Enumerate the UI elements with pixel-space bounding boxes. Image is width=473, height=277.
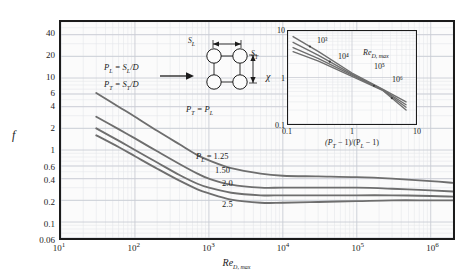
x-tick-1e4: 104	[277, 243, 290, 253]
y-tick-10: 10	[46, 72, 55, 82]
inset-x-a: (P	[325, 138, 333, 147]
y-tick-0-2: 0.2	[44, 197, 55, 207]
y-tick-1: 1	[51, 145, 56, 155]
inset-pointer	[309, 45, 311, 47]
inset-pointer	[329, 61, 331, 63]
pt-over-d: /D	[130, 79, 139, 89]
y-tick-0-6: 0.6	[44, 162, 55, 172]
tube-array-svg	[196, 38, 262, 108]
arrow-right-icon	[160, 70, 194, 82]
y-tick-20: 20	[46, 50, 55, 60]
x-tick-1e3: 103	[202, 243, 215, 253]
inset-x-tick-1: 1	[350, 127, 354, 136]
x-axis-title: ReD, max	[0, 257, 473, 268]
curve-label-1-25: PL = 1.25	[196, 151, 228, 161]
x-axis-title-main: Re	[223, 257, 234, 268]
curve-label-1-50: 1.50	[215, 165, 230, 175]
pt-equals-s: = S	[113, 79, 127, 89]
inset-re-annotation: ReD, max	[363, 48, 389, 57]
annotation-pt-equals-pl: PT = PL	[186, 104, 213, 114]
inset-y-tick-1: 1	[281, 73, 285, 82]
y-axis-tick-labels: 40201064210.60.40.20.10.06	[0, 20, 55, 240]
y-tick-0-4: 0.4	[44, 175, 55, 185]
inset-y-tick-10: 10	[277, 26, 285, 35]
x-tick-1e1: 101	[53, 243, 66, 253]
pl-equals-s: = S	[113, 62, 127, 72]
x-tick-1e5: 105	[352, 243, 365, 253]
annotation-pt-definition: PT = ST/D	[104, 79, 139, 89]
tube-bank-diagram: SL ST	[196, 38, 262, 108]
y-tick-4: 4	[51, 101, 56, 111]
curve-label-2-0: 2.0	[222, 178, 233, 188]
sl-subscript: L	[192, 41, 195, 47]
annotation-pl-definition: PL = SL/D	[104, 62, 139, 72]
x-tick-1e6: 106	[426, 243, 439, 253]
y-tick-40: 40	[46, 28, 55, 38]
pl-over-d: /D	[130, 62, 139, 72]
inset-x-tick-0-1: 0.1	[282, 127, 292, 136]
x-axis-title-sub: D, max	[233, 264, 250, 270]
inset-curve-label-1e4: 10⁴	[338, 52, 349, 61]
y-tick-2: 2	[51, 123, 56, 133]
x-tick-1e2: 102	[127, 243, 140, 253]
inset-y-axis-title: χ	[266, 71, 270, 82]
inset-curve-label-1e3: 10³	[317, 36, 327, 45]
inset-x-axis-title: (PT − 1)/(PL − 1)	[287, 138, 417, 147]
inset-x-tick-10: 10	[413, 127, 421, 136]
inset-curve-label-1e6: 10⁶	[392, 75, 403, 84]
figure-container: 40201064210.60.40.20.10.06 f 10110210310…	[0, 0, 473, 277]
eq-pl-subscript: L	[210, 110, 213, 116]
inset-x-c: − 1)	[364, 138, 379, 147]
inset-y-axis-tick-labels: 1010.1	[258, 30, 285, 125]
eq-middle: = P	[195, 104, 210, 114]
curve-pl-value: = 1.25	[205, 151, 229, 161]
inset-curve-label-1e5: 10⁵	[374, 62, 385, 71]
y-tick-0-1: 0.1	[44, 219, 55, 229]
y-axis-title: f	[12, 128, 15, 143]
dimension-label-sl: SL	[188, 36, 195, 45]
inset-pointer	[391, 97, 393, 99]
inset-curve-4	[293, 52, 406, 110]
inset-re-sub: D, max	[371, 53, 388, 59]
curve-label-2-5: 2.5	[222, 199, 233, 209]
inset-pointer	[373, 85, 375, 87]
inset-x-b: − 1)/(P	[336, 138, 361, 147]
y-tick-6: 6	[51, 88, 56, 98]
